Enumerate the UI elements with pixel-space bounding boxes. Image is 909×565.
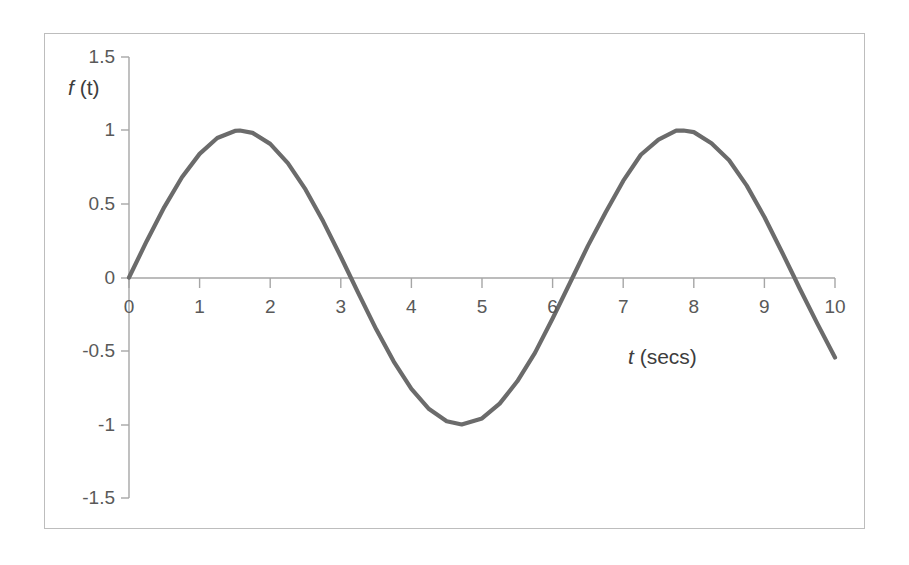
x-tick-label-9: 9 <box>744 296 784 318</box>
y-tick-label-1.5: 1.5 <box>55 46 115 68</box>
y-tick-label--1.5: -1.5 <box>55 487 115 509</box>
x-tick-label-8: 8 <box>674 296 714 318</box>
chart-plot-area <box>0 0 909 565</box>
y-tick-label--0.5: -0.5 <box>55 340 115 362</box>
x-axis-ticks <box>129 278 835 288</box>
x-tick-label-3: 3 <box>321 296 361 318</box>
y-tick-label-0: 0 <box>55 267 115 289</box>
y-tick-label--1: -1 <box>55 414 115 436</box>
x-tick-label-0: 0 <box>109 296 149 318</box>
y-axis-title: f (t) <box>68 76 100 100</box>
x-tick-label-4: 4 <box>391 296 431 318</box>
y-tick-label-0.5: 0.5 <box>55 193 115 215</box>
x-axis-title: t (secs) <box>628 345 697 369</box>
chart-figure: 1.5 1 0.5 0 -0.5 -1 -1.5 0 1 2 3 4 5 6 7… <box>0 0 909 565</box>
x-tick-label-1: 1 <box>180 296 220 318</box>
y-axis-title-suffix: (t) <box>74 76 100 99</box>
y-tick-label-1: 1 <box>55 119 115 141</box>
x-tick-label-5: 5 <box>462 296 502 318</box>
x-tick-label-10: 10 <box>815 296 855 318</box>
x-tick-label-7: 7 <box>603 296 643 318</box>
x-axis-title-suffix: (secs) <box>634 345 697 368</box>
x-tick-label-2: 2 <box>250 296 290 318</box>
x-tick-label-6: 6 <box>533 296 573 318</box>
